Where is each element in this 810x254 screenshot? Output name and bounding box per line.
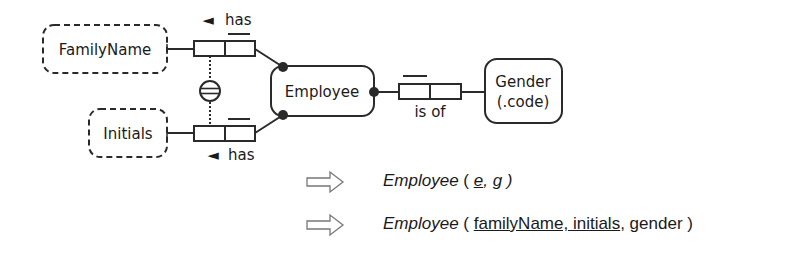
- relation-name: Employee: [383, 214, 459, 233]
- relation-schema-2: Employee ( familyName, initials, gender …: [383, 214, 693, 234]
- family-name-label: FamilyName: [59, 41, 152, 59]
- relation-schema-1: Employee ( e, g ): [383, 171, 512, 191]
- reading-is-of: is of: [414, 103, 446, 121]
- reading-has-bottom: has: [228, 146, 255, 164]
- relation-rest: , g ): [483, 171, 512, 190]
- gender-label-line2: (.code): [497, 93, 550, 111]
- implies-arrow-1-icon: [307, 172, 343, 192]
- relation-name: Employee: [383, 171, 459, 190]
- external-uniqueness-constraint-icon[interactable]: [200, 81, 220, 101]
- reading-has-top: has: [225, 11, 252, 29]
- primary-key-attribute: e: [474, 171, 483, 190]
- reading-direction-top-icon: ◄: [202, 11, 214, 29]
- gender-entity-type[interactable]: [485, 59, 562, 123]
- relation-rest: , gender ): [620, 214, 693, 233]
- gender-label-line1: Gender: [495, 73, 551, 91]
- primary-key-attributes: familyName, initials: [474, 214, 620, 233]
- mandatory-dot-bottom-icon: [278, 110, 288, 120]
- relation-open-paren: (: [459, 214, 474, 233]
- relation-open-paren: (: [459, 171, 474, 190]
- mandatory-dot-top-icon: [278, 62, 288, 72]
- employee-label: Employee: [285, 83, 359, 101]
- reading-direction-bottom-icon: ◄: [207, 146, 219, 164]
- implies-arrow-2-icon: [307, 215, 343, 235]
- initials-label: Initials: [103, 125, 153, 143]
- mandatory-dot-isof-icon: [369, 87, 379, 97]
